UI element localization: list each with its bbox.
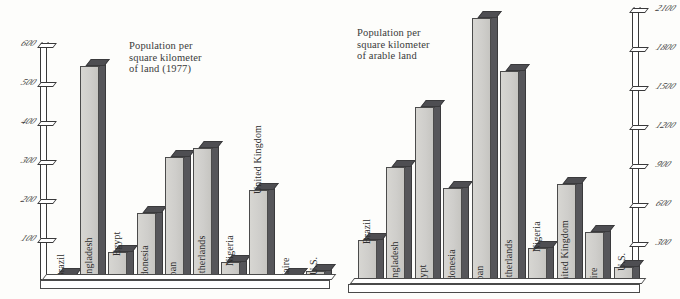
bar-top — [591, 225, 615, 232]
axis-tick: 1800 — [629, 47, 649, 52]
axis-tick: 500 — [37, 82, 57, 87]
bar-top — [505, 64, 529, 71]
axis-tick-label: 400 — [18, 116, 40, 126]
bar-face — [415, 107, 434, 284]
axis-tick-label: 500 — [18, 77, 40, 87]
bar-category-label: U.S. — [617, 253, 627, 271]
axis-tick-label: 200 — [18, 194, 40, 204]
bar-side — [462, 182, 469, 284]
right-ground-top — [350, 278, 647, 284]
axis-tick: 300 — [37, 160, 57, 165]
axis-tick-label: 900 — [653, 159, 675, 169]
axis-tick: 600 — [37, 43, 57, 48]
axis-tick: 600 — [629, 203, 649, 208]
bar-category-label: Brazil — [362, 219, 372, 244]
bar-face — [472, 18, 491, 285]
figure-canvas: Population per square kilometer of land … — [0, 0, 680, 299]
axis-tick-label: 300 — [653, 237, 675, 247]
bar[interactable] — [415, 107, 434, 284]
bar-category-label: Egypt — [112, 231, 122, 255]
bar-side — [491, 12, 498, 284]
left-ground-slab — [40, 280, 330, 289]
left-chart-title: Population per square kilometer of land … — [129, 40, 202, 75]
axis-tick: 100 — [37, 238, 57, 243]
axis-tick-label: 2100 — [653, 3, 679, 13]
left-ground-top — [42, 274, 337, 280]
axis-tick-label: 600 — [18, 38, 40, 48]
bar-top — [198, 141, 222, 148]
axis-tick-label: 600 — [653, 198, 675, 208]
axis-tick: 2100 — [629, 8, 649, 13]
bar-side — [604, 227, 611, 284]
bar-side — [184, 152, 191, 280]
axis-tick-label: 1800 — [653, 42, 679, 52]
axis-tick: 900 — [629, 164, 649, 169]
bar-side — [212, 143, 219, 280]
bar-category-label: Nigeria — [225, 236, 235, 267]
bar-face — [249, 190, 268, 280]
axis-tick: 300 — [629, 242, 649, 247]
axis-tick: 200 — [37, 199, 57, 204]
bar-side — [99, 60, 106, 280]
bar-top — [420, 100, 444, 107]
bar-top — [392, 160, 416, 167]
bar-side — [156, 207, 163, 280]
axis-tick-label: 100 — [18, 233, 40, 243]
axis-tick: 1500 — [629, 86, 649, 91]
bar[interactable] — [472, 18, 491, 285]
bar-category-label: U.S. — [309, 256, 319, 274]
bar-top — [170, 150, 194, 157]
bar[interactable] — [249, 190, 268, 280]
bar-top — [86, 59, 110, 66]
right-chart-title: Population per square kilometer of arabl… — [357, 27, 430, 62]
bar-side — [377, 234, 384, 284]
bar-side — [434, 102, 441, 284]
bar-side — [576, 178, 583, 284]
bar-side — [268, 185, 275, 280]
axis-tick-label: 300 — [18, 155, 40, 165]
bar-side — [519, 65, 526, 284]
bar-top — [562, 177, 586, 184]
axis-tick-label: 1200 — [653, 120, 679, 130]
axis-tick: 1200 — [629, 125, 649, 130]
axis-tick-label: 1500 — [653, 81, 679, 91]
bar-category-label: United Kingdom — [253, 125, 263, 194]
bar-top — [449, 181, 473, 188]
bar-side — [405, 162, 412, 284]
bar-category-label: Nigeria — [532, 222, 542, 253]
right-ground-slab — [348, 284, 640, 293]
axis-tick: 400 — [37, 121, 57, 126]
